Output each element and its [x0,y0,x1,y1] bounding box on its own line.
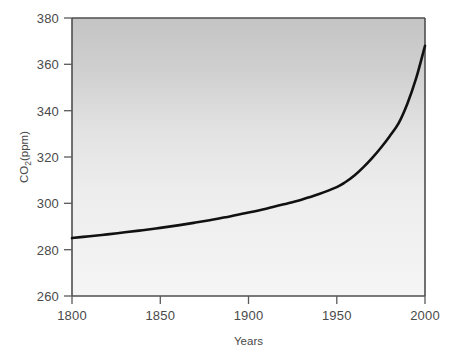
chart-figure: 380 360 340 320 300 280 260 1800 1850 19… [0,0,463,360]
x-tick-label-1800: 1800 [57,308,87,323]
x-tick-label-2000: 2000 [410,308,440,323]
y-tick-label-280: 280 [37,243,59,258]
y-tick-label-320: 320 [37,150,59,165]
y-tick-label-300: 300 [37,196,59,211]
y-axis-title-main: CO [18,166,30,183]
y-tick-label-340: 340 [37,104,59,119]
co2-line-chart: 380 360 340 320 300 280 260 1800 1850 19… [0,0,463,360]
x-axis-title: Years [234,335,263,347]
x-tick-label-1850: 1850 [145,308,175,323]
y-tick-label-380: 380 [37,11,59,26]
x-tick-label-1950: 1950 [322,308,352,323]
y-tick-label-360: 360 [37,57,59,72]
y-axis-title-unit: (ppm) [18,131,30,161]
x-tick-label-1900: 1900 [234,308,264,323]
y-tick-label-260: 260 [37,289,59,304]
